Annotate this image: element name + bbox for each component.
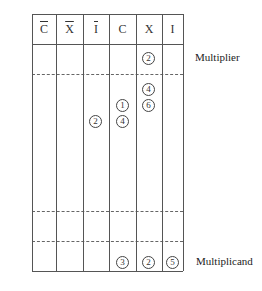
header-divider [32, 44, 183, 45]
column-header-i-bar: I [83, 14, 109, 44]
column-line-2 [83, 14, 84, 271]
circled-number: 3 [116, 256, 129, 269]
column-line-3 [109, 14, 110, 271]
circled-number: 2 [142, 256, 155, 269]
circled-number: 2 [142, 52, 155, 65]
row-divider-lower-2 [32, 241, 183, 242]
circled-number: 4 [142, 83, 155, 96]
column-line-5 [162, 14, 163, 271]
row-divider-multiplier [32, 74, 183, 75]
column-header-c: C [109, 14, 136, 44]
multiplicand-label: Multiplicand [196, 255, 253, 267]
grid-bottom-border [32, 271, 183, 272]
column-line-0 [32, 14, 33, 271]
column-header-c-bar: C [32, 14, 56, 44]
row-divider-lower-1 [32, 211, 183, 212]
multiplier-label: Multiplier [195, 51, 240, 63]
column-header-x-bar: X [56, 14, 83, 44]
column-line-1 [56, 14, 57, 271]
circled-number: 5 [166, 256, 179, 269]
circled-number: 6 [142, 99, 155, 112]
circled-number: 2 [89, 115, 102, 128]
column-header-x: X [136, 14, 162, 44]
circled-number: 4 [116, 115, 129, 128]
column-line-6 [183, 14, 184, 271]
column-header-i: I [162, 14, 183, 44]
column-line-4 [136, 14, 137, 271]
circled-number: 1 [116, 99, 129, 112]
